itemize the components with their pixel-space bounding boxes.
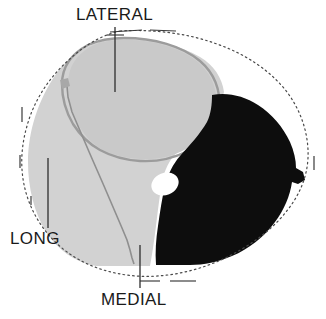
- cross-section-illustration: [0, 0, 326, 319]
- label-medial: MEDIAL: [101, 291, 167, 308]
- label-long: LONG: [10, 230, 60, 247]
- cross-section-figure: LATERAL LONG MEDIAL: [0, 0, 326, 319]
- label-lateral: LATERAL: [76, 6, 153, 23]
